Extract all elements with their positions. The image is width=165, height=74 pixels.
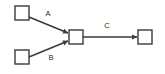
nodes-layer [15, 6, 152, 64]
edge-a-label: A [45, 9, 50, 18]
edge-a-line [29, 17, 68, 33]
node-center[interactable] [69, 30, 83, 44]
node-right[interactable] [138, 30, 152, 44]
edge-b-label: B [48, 53, 53, 62]
node-top-left[interactable] [15, 6, 29, 20]
diagram-svg: A B C [0, 0, 165, 74]
edge-c-label: C [104, 21, 110, 30]
node-bottom-left[interactable] [15, 50, 29, 64]
diagram-canvas: A B C [0, 0, 165, 74]
